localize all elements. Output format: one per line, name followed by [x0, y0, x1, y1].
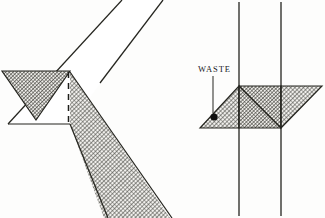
waste-pointer-dot — [210, 113, 217, 120]
figure-canvas: WASTE — [0, 0, 325, 218]
woodworking-fold-diagram: WASTE — [0, 0, 325, 218]
waste-label: WASTE — [198, 64, 231, 74]
